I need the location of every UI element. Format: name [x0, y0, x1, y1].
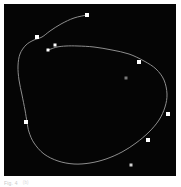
- waypoint-marker[interactable]: [166, 112, 170, 116]
- waypoint-marker[interactable]: [54, 44, 57, 47]
- waypoint-marker[interactable]: [125, 77, 128, 80]
- plot-canvas: [4, 4, 176, 176]
- figure-root: Fig. 4 (b): [0, 0, 181, 187]
- waypoint-marker[interactable]: [137, 60, 141, 64]
- waypoint-marker[interactable]: [35, 35, 39, 39]
- panel-background: [4, 4, 176, 176]
- waypoint-marker[interactable]: [85, 13, 89, 17]
- caption-note: (b): [23, 180, 29, 186]
- plot-panel: [4, 4, 176, 176]
- figure-caption: Fig. 4 (b): [4, 178, 176, 187]
- waypoint-marker[interactable]: [47, 49, 50, 52]
- waypoint-marker[interactable]: [146, 138, 150, 142]
- waypoint-marker[interactable]: [24, 120, 28, 124]
- caption-label: Fig. 4: [4, 180, 18, 186]
- waypoint-marker[interactable]: [130, 164, 133, 167]
